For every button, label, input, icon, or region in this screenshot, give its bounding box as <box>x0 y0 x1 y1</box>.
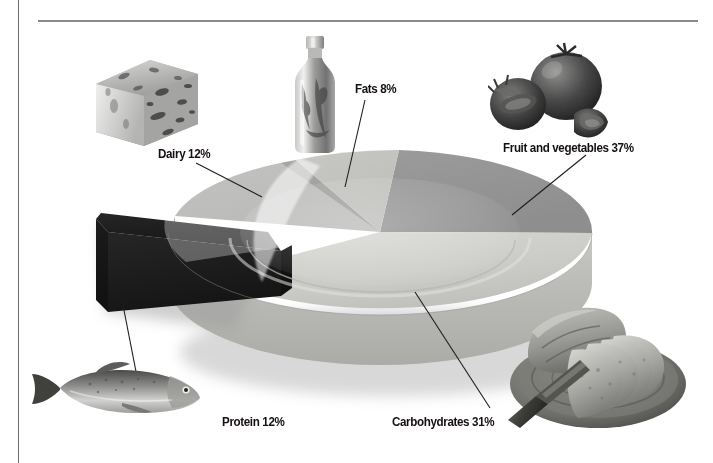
label-protein: Protein 12% <box>222 415 284 429</box>
oil-bottle-photo <box>286 34 344 156</box>
cheese-wedge-photo <box>88 48 206 152</box>
bread-board-photo <box>502 292 692 432</box>
label-dairy: Dairy 12% <box>158 147 210 161</box>
tomatoes-photo <box>488 42 614 148</box>
label-carbohydrates: Carbohydrates 31% <box>392 415 494 429</box>
fish-photo <box>26 358 204 422</box>
label-fats: Fats 8% <box>355 82 396 96</box>
label-fruit-and-vegetables: Fruit and vegetables 37% <box>503 141 634 155</box>
figure-page: Dairy 12% Fats 8% Fruit and vegetables 3… <box>0 0 713 463</box>
protein-slice-side <box>96 219 108 312</box>
